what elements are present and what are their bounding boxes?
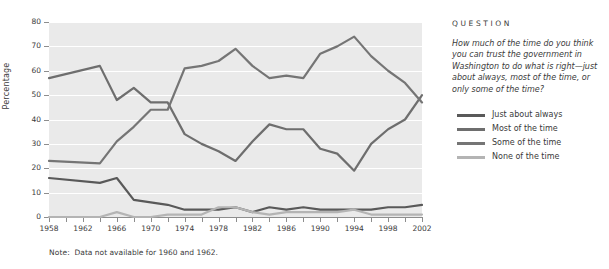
legend-swatch	[457, 114, 485, 117]
legend-item[interactable]: None of the time	[452, 150, 609, 164]
legend-swatch	[457, 142, 485, 145]
side-panel: QUESTION How much of the time do you thi…	[452, 0, 609, 269]
y-axis-tick-label: 50	[15, 91, 41, 99]
note-label: Note:	[49, 248, 70, 257]
legend-label: Most of the time	[492, 122, 558, 136]
legend-label: None of the time	[492, 150, 559, 164]
x-axis-tick	[202, 218, 203, 222]
x-axis-tick-label: 1986	[277, 224, 296, 233]
x-axis-tick	[185, 218, 186, 222]
x-axis-tick	[83, 218, 84, 222]
legend-item[interactable]: Most of the time	[452, 122, 609, 136]
y-axis-tick-label: 0	[15, 213, 41, 221]
x-axis-tick-label: 1974	[175, 224, 194, 233]
chart-screenshot: Percentage 01020304050607080 19581962196…	[0, 0, 609, 269]
x-axis-tick-label: 1958	[39, 224, 58, 233]
x-axis-tick	[422, 218, 423, 222]
x-axis-tick	[219, 218, 220, 222]
x-axis-tick-label: 1966	[107, 224, 126, 233]
x-axis-tick	[117, 218, 118, 222]
x-axis-tick	[252, 218, 253, 222]
x-axis-tick-label: 1970	[141, 224, 160, 233]
legend: Just about alwaysMost of the timeSome of…	[452, 108, 609, 164]
legend-item[interactable]: Just about always	[452, 108, 609, 122]
x-axis-tick	[269, 218, 270, 222]
x-axis-tick-label: 1978	[209, 224, 228, 233]
x-axis-tick	[286, 218, 287, 222]
x-axis-tick	[354, 218, 355, 222]
y-axis-tick-label: 70	[15, 42, 41, 50]
x-axis-tick-label: 1962	[73, 224, 92, 233]
legend-item[interactable]: Some of the time	[452, 136, 609, 150]
plot-region	[49, 22, 422, 217]
legend-label: Some of the time	[492, 136, 561, 150]
x-axis-tick	[405, 218, 406, 222]
note-text: Data not available for 1960 and 1962.	[75, 248, 218, 257]
x-axis-tick	[100, 218, 101, 222]
x-axis-tick	[66, 218, 67, 222]
y-axis-tick-label: 20	[15, 164, 41, 172]
x-axis-tick	[320, 218, 321, 222]
x-axis-tick-label: 1990	[311, 224, 330, 233]
legend-label: Just about always	[492, 108, 562, 122]
y-axis-tick-label: 60	[15, 67, 41, 75]
y-axis-tick-label: 10	[15, 189, 41, 197]
y-axis-tick-label: 80	[15, 18, 41, 26]
series-lines	[49, 22, 422, 217]
x-axis-tick	[168, 218, 169, 222]
series-line	[49, 37, 422, 164]
x-axis-tick	[337, 218, 338, 222]
x-axis-tick	[388, 218, 389, 222]
x-axis-tick	[303, 218, 304, 222]
x-axis-tick	[49, 218, 50, 222]
y-axis-tick-label: 30	[15, 140, 41, 148]
legend-swatch	[457, 156, 485, 159]
chart-note: Note: Data not available for 1960 and 19…	[49, 248, 218, 257]
question-heading: QUESTION	[452, 19, 512, 28]
chart-area: Percentage 01020304050607080 19581962196…	[0, 0, 440, 269]
x-axis-tick	[236, 218, 237, 222]
x-axis-tick	[371, 218, 372, 222]
x-axis-tick	[151, 218, 152, 222]
x-axis-tick-label: 1994	[345, 224, 364, 233]
y-axis-tick-label: 40	[15, 116, 41, 124]
x-axis-tick-label: 1982	[243, 224, 262, 233]
question-text: How much of the time do you think you ca…	[452, 38, 604, 95]
x-axis-tick-label: 2002	[412, 224, 431, 233]
series-line	[49, 66, 422, 171]
legend-swatch	[457, 128, 485, 131]
x-axis-tick-label: 1998	[379, 224, 398, 233]
x-axis-tick	[134, 218, 135, 222]
